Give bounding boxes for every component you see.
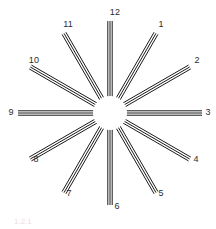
spoke-label-2: 2 (194, 56, 199, 65)
spoke-8 (29, 119, 98, 161)
spoke-3 (125, 111, 202, 115)
center-hub-circle (93, 96, 127, 130)
spoke-label-12: 12 (110, 8, 120, 17)
spoke-label-7: 7 (66, 189, 71, 198)
spoke-label-9: 9 (8, 108, 13, 117)
spoke-11 (62, 32, 104, 101)
spoke-9 (18, 111, 95, 115)
spoke-label-10: 10 (29, 56, 39, 65)
spoke-label-5: 5 (158, 189, 163, 198)
spoke-7 (62, 125, 104, 194)
spoke-label-11: 11 (63, 20, 73, 29)
spoke-4 (122, 119, 191, 161)
spoke-10 (29, 65, 98, 107)
spoke-label-6: 6 (114, 202, 119, 211)
spoke-5 (116, 125, 158, 194)
spoke-label-8: 8 (33, 155, 38, 164)
figure-caption: 1.2.1 (14, 218, 32, 226)
spoke-2 (122, 65, 191, 107)
radial-spoke-figure: 123456789101112 1.2.1 (0, 0, 216, 229)
spoke-1 (116, 32, 158, 101)
spoke-diagram-canvas (0, 0, 216, 229)
spoke-label-1: 1 (158, 20, 163, 29)
spoke-12 (108, 21, 112, 98)
spoke-label-4: 4 (193, 155, 198, 164)
spoke-6 (108, 128, 112, 205)
spoke-label-3: 3 (205, 108, 210, 117)
